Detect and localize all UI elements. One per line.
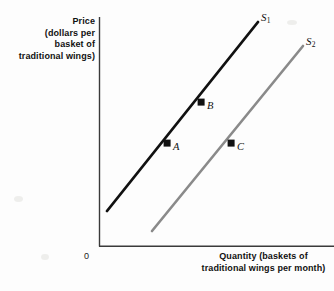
scan-artifact bbox=[41, 254, 49, 260]
scan-artifact bbox=[287, 20, 297, 25]
point-marker-c bbox=[228, 140, 235, 147]
curve-label-s2-letter: S bbox=[306, 35, 312, 47]
point-marker-b bbox=[198, 99, 205, 106]
point-label-b: B bbox=[207, 100, 213, 111]
curve-label-s1-subscript: 1 bbox=[267, 16, 271, 25]
supply-curve-figure: Price (dollars per basket of traditional… bbox=[0, 0, 334, 291]
scan-artifact bbox=[14, 196, 23, 202]
x-axis-title: Quantity (baskets of traditional wings p… bbox=[193, 251, 334, 274]
curve-label-s2: S2 bbox=[306, 35, 315, 47]
supply-curve-s2 bbox=[152, 46, 303, 231]
curve-label-s2-subscript: 2 bbox=[312, 40, 316, 49]
point-marker-a bbox=[164, 140, 171, 147]
curve-label-s1-letter: S bbox=[261, 11, 267, 23]
y-axis-title: Price (dollars per basket of traditional… bbox=[0, 16, 95, 62]
origin-label: 0 bbox=[84, 251, 89, 261]
supply-curve-s1 bbox=[107, 22, 258, 211]
point-label-c: C bbox=[237, 141, 244, 152]
curve-label-s1: S1 bbox=[261, 11, 270, 23]
point-label-a: A bbox=[173, 141, 179, 152]
